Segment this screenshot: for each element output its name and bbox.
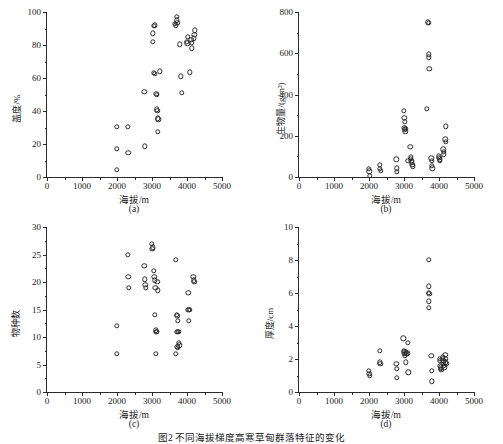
panel-d-x-tick-label: 1000 <box>325 397 343 406</box>
panel-c-y-axis-title: 物种数 <box>9 310 22 337</box>
panel-b: 生物量/(g/m²) 02004006008000100020003000400… <box>252 0 503 215</box>
data-point <box>437 158 442 163</box>
data-point <box>178 74 183 79</box>
panel-a-x-tick-label: 4000 <box>178 182 196 191</box>
panel-c-y-minor-tick <box>45 241 48 242</box>
data-point <box>429 353 434 358</box>
panel-b-x-tick-label: 2000 <box>360 182 378 191</box>
panel-c-y-tick <box>43 227 47 228</box>
panel-d-x-minor-tick <box>317 392 318 395</box>
data-point <box>443 124 448 129</box>
panel-d-y-axis-title: 厚度/cm <box>263 307 276 339</box>
panel-d-y-tick-label: 6 <box>289 289 294 298</box>
data-point <box>377 361 382 366</box>
panel-b-y-tick <box>295 12 299 13</box>
panel-d-y-minor-tick <box>297 244 300 245</box>
panel-d-y-tick <box>295 359 299 360</box>
data-point <box>179 90 184 95</box>
panel-d-y-tick-label: 8 <box>289 256 294 265</box>
figure-caption: 图2 不同海拔梯度高寒草甸群落特征的变化 <box>0 430 503 444</box>
panel-c-y-tick <box>43 310 47 311</box>
panel-a-y-tick-label: 0 <box>37 173 42 182</box>
data-point <box>174 20 179 25</box>
panel-a-y-minor-tick <box>45 161 48 162</box>
panel-b-x-tick-label: 1000 <box>325 182 343 191</box>
panel-d-points <box>299 227 474 392</box>
data-point <box>154 92 159 97</box>
panel-c-y-tick <box>43 282 47 283</box>
panel-c-y-tick-label: 10 <box>32 333 41 342</box>
panel-b-points <box>299 12 474 177</box>
panel-b-y-tick <box>295 53 299 54</box>
panel-a-y-tick <box>43 111 47 112</box>
data-point <box>186 290 191 295</box>
data-point <box>125 252 130 257</box>
panel-a-x-minor-tick <box>100 177 101 180</box>
panel-d-x-tick-label: 3000 <box>395 397 413 406</box>
data-point <box>114 351 119 356</box>
data-point <box>155 288 160 293</box>
panel-c-y-minor-tick <box>45 268 48 269</box>
panel-b-x-tick-label: 4000 <box>430 182 448 191</box>
data-point <box>154 329 159 334</box>
panel-d-y-minor-tick <box>297 310 300 311</box>
panel-d-plot-area: 0246810010002000300040005000 <box>298 227 474 393</box>
panel-c-y-tick <box>43 255 47 256</box>
panel-c-y-tick-label: 15 <box>32 305 41 314</box>
panel-a-y-tick <box>43 144 47 145</box>
data-point <box>114 124 119 129</box>
panel-b-x-minor-tick <box>317 177 318 180</box>
data-point <box>394 366 399 371</box>
panel-c-y-tick-label: 30 <box>32 223 41 232</box>
panel-d-y-tick <box>295 293 299 294</box>
panel-d-x-tick-label: 4000 <box>430 397 448 406</box>
data-point <box>410 164 415 169</box>
data-point <box>125 150 130 155</box>
data-point <box>401 108 406 113</box>
panel-a-x-minor-tick <box>170 177 171 180</box>
data-point <box>394 157 399 162</box>
panel-c-x-tick-label: 0 <box>45 397 50 406</box>
panel-b-y-minor-tick <box>297 156 300 157</box>
panel-a-y-tick-label: 40 <box>32 107 41 116</box>
data-point <box>153 351 158 356</box>
data-point <box>177 41 182 46</box>
data-point <box>152 22 157 27</box>
panel-b-y-minor-tick <box>297 115 300 116</box>
data-point <box>426 291 431 296</box>
data-point <box>126 285 131 290</box>
panel-c-points <box>47 227 222 392</box>
panel-c-y-tick-label: 5 <box>37 360 42 369</box>
panel-c-y-tick-label: 0 <box>37 388 42 397</box>
panel-d-x-minor-tick <box>422 392 423 395</box>
panel-a-y-tick <box>43 45 47 46</box>
panel-c-y-tick-label: 25 <box>32 250 41 259</box>
panel-b-y-minor-tick <box>297 33 300 34</box>
data-point <box>394 375 399 380</box>
panel-b-x-minor-tick <box>387 177 388 180</box>
panel-b-y-tick-label: 200 <box>280 131 294 140</box>
panel-d-x-minor-tick <box>457 392 458 395</box>
data-point <box>173 257 178 262</box>
panel-a-y-tick-label: 20 <box>32 140 41 149</box>
panel-a-x-tick-label: 0 <box>45 182 50 191</box>
data-point <box>192 279 197 284</box>
data-point <box>142 263 147 268</box>
panel-c-label: (c) <box>46 419 222 429</box>
panel-a-points <box>47 12 222 177</box>
panel-a-label: (a) <box>46 204 222 214</box>
data-point <box>426 284 431 289</box>
data-point <box>426 305 431 310</box>
panel-b-x-minor-tick <box>457 177 458 180</box>
panel-d-y-tick-label: 2 <box>289 355 294 364</box>
panel-c-y-minor-tick <box>45 351 48 352</box>
data-point <box>177 343 182 348</box>
panel-c-x-minor-tick <box>170 392 171 395</box>
panel-d-y-minor-tick <box>297 376 300 377</box>
panel-c-y-minor-tick <box>45 323 48 324</box>
panel-a-x-minor-tick <box>135 177 136 180</box>
panel-c-y-tick <box>43 337 47 338</box>
panel-a-y-tick-label: 80 <box>32 41 41 50</box>
panel-a-y-tick <box>43 12 47 13</box>
panel-a-y-axis-title: 盖度/% <box>10 94 23 122</box>
